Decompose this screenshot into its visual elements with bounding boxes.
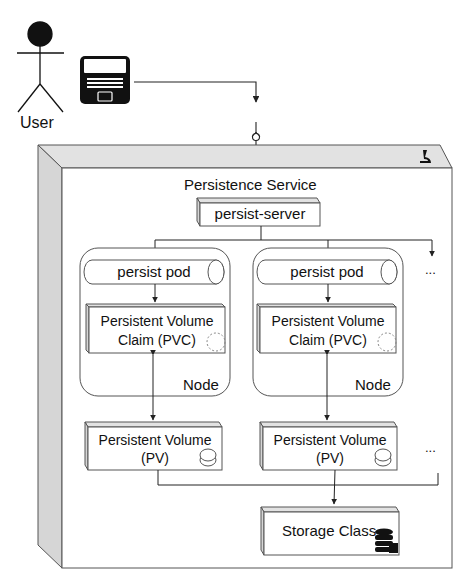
more-nodes-ellipsis: ... xyxy=(425,262,436,277)
node-2-label: Node xyxy=(355,376,391,393)
pv-1-line2: (PV) xyxy=(88,450,222,466)
pv-2-line1[interactable]: Persistent Volume xyxy=(263,432,397,448)
node-2-pvc-line2: Claim (PVC) xyxy=(260,332,396,348)
pv-1-line1[interactable]: Persistent Volume xyxy=(88,432,222,448)
node-2-pod-label[interactable]: persist pod xyxy=(265,263,389,280)
node-1-pvc-line1[interactable]: Persistent Volume xyxy=(89,313,225,329)
node-2-pvc-line1[interactable]: Persistent Volume xyxy=(260,313,396,329)
node-1-pod-label[interactable]: persist pod xyxy=(92,263,216,280)
laptop-icon xyxy=(80,56,130,104)
request-connector xyxy=(134,82,260,150)
user-label: User xyxy=(20,114,54,132)
persist-server-label[interactable]: persist-server xyxy=(200,205,320,222)
pv-2-line2: (PV) xyxy=(263,450,397,466)
storage-class-label[interactable]: Storage Class xyxy=(282,522,376,539)
more-pvs-ellipsis: ... xyxy=(425,440,436,455)
node-1-label: Node xyxy=(183,376,219,393)
node-1-pvc-line2: Claim (PVC) xyxy=(89,332,225,348)
service-title: Persistence Service xyxy=(184,176,317,193)
user-actor-icon xyxy=(17,22,64,112)
